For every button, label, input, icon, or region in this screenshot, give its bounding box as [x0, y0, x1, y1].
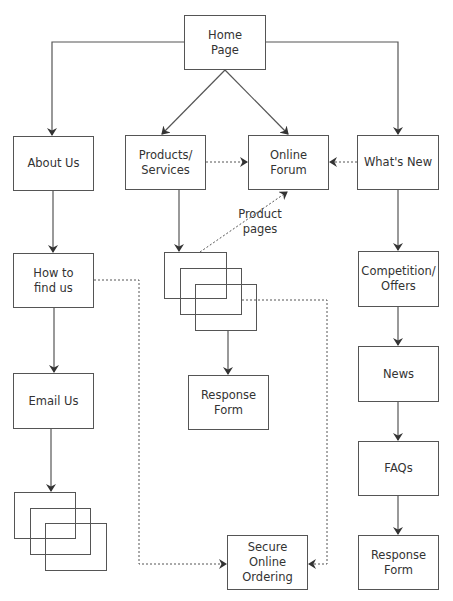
node-label: What's New	[364, 155, 432, 170]
node-label: About Us	[27, 156, 79, 171]
node-label: Competition/ Offers	[361, 264, 435, 294]
node-label: Secure Online Ordering	[228, 540, 307, 585]
node-online-forum: Online Forum	[248, 135, 329, 190]
node-label: Email Us	[29, 394, 79, 409]
edge-stack-ordering-dashed	[242, 300, 327, 564]
node-response-form-right: Response Form	[358, 535, 439, 590]
node-label: Products/ Services	[139, 148, 193, 178]
node-label: Online Forum	[270, 148, 307, 178]
edge-home-about	[52, 42, 184, 135]
node-email-us: Email Us	[13, 373, 94, 429]
node-home-page: Home Page	[184, 15, 266, 70]
node-label: Response Form	[201, 388, 256, 418]
edge-home-whatsnew	[266, 42, 398, 134]
node-label: Home Page	[208, 28, 242, 58]
node-secure-online-ordering: Secure Online Ordering	[227, 535, 308, 590]
node-products-services: Products/ Services	[125, 135, 206, 190]
node-whats-new: What's New	[357, 135, 439, 190]
node-response-form-center: Response Form	[188, 375, 269, 430]
node-label: How to find us	[33, 266, 73, 296]
stack-page	[195, 284, 257, 331]
label-product-pages: Product pages	[232, 207, 288, 237]
node-competition-offers: Competition/ Offers	[358, 251, 439, 307]
site-map-diagram: Home Page About Us Products/ Services On…	[0, 0, 453, 601]
node-label: Response Form	[371, 548, 426, 578]
node-label: News	[383, 367, 414, 382]
edge-home-products	[162, 70, 225, 134]
node-label: FAQs	[384, 461, 412, 476]
stack-page	[45, 523, 107, 571]
node-how-to-find-us: How to find us	[13, 253, 94, 308]
edge-home-forum	[225, 70, 288, 134]
node-about-us: About Us	[13, 136, 94, 191]
node-faqs: FAQs	[358, 441, 439, 496]
node-news: News	[358, 346, 439, 402]
